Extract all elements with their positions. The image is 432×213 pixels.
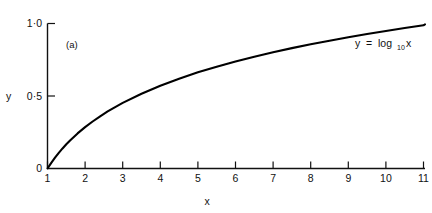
figure-log-plot: 1·0 0·5 0 1 2 3 4 5 6 7 8 9 10 11 y x (a… (0, 0, 432, 213)
y-tick-label-0-5: 0·5 (27, 90, 42, 102)
equation-variable-x: x (406, 37, 412, 49)
x-tick-label-1: 1 (45, 172, 51, 184)
x-tick-label-5: 5 (195, 172, 201, 184)
x-tick-label-2: 2 (82, 172, 88, 184)
equation-y: y (355, 37, 361, 49)
x-tick-label-6: 6 (233, 172, 239, 184)
y-axis-label: y (6, 90, 12, 102)
y-tick-label-0: 0 (36, 162, 42, 174)
x-tick-label-3: 3 (120, 172, 126, 184)
x-axis-label: x (204, 195, 210, 207)
x-tick-marks (48, 162, 424, 169)
y-tick-label-1-0: 1·0 (27, 17, 42, 29)
equation-equals: = (366, 37, 372, 49)
chart-svg: 1·0 0·5 0 1 2 3 4 5 6 7 8 9 10 11 y x (a… (0, 0, 432, 213)
equation-log: log (378, 37, 392, 49)
equation-annotation: y = log 10 x (355, 37, 412, 51)
x-tick-label-10: 10 (380, 172, 392, 184)
x-tick-label-11: 11 (418, 172, 429, 184)
x-tick-label-9: 9 (345, 172, 351, 184)
panel-label: (a) (66, 39, 78, 50)
x-tick-label-7: 7 (270, 172, 276, 184)
x-tick-label-4: 4 (157, 172, 163, 184)
y-tick-marks (48, 24, 56, 97)
equation-subscript-10: 10 (397, 44, 405, 51)
x-tick-label-8: 8 (308, 172, 314, 184)
